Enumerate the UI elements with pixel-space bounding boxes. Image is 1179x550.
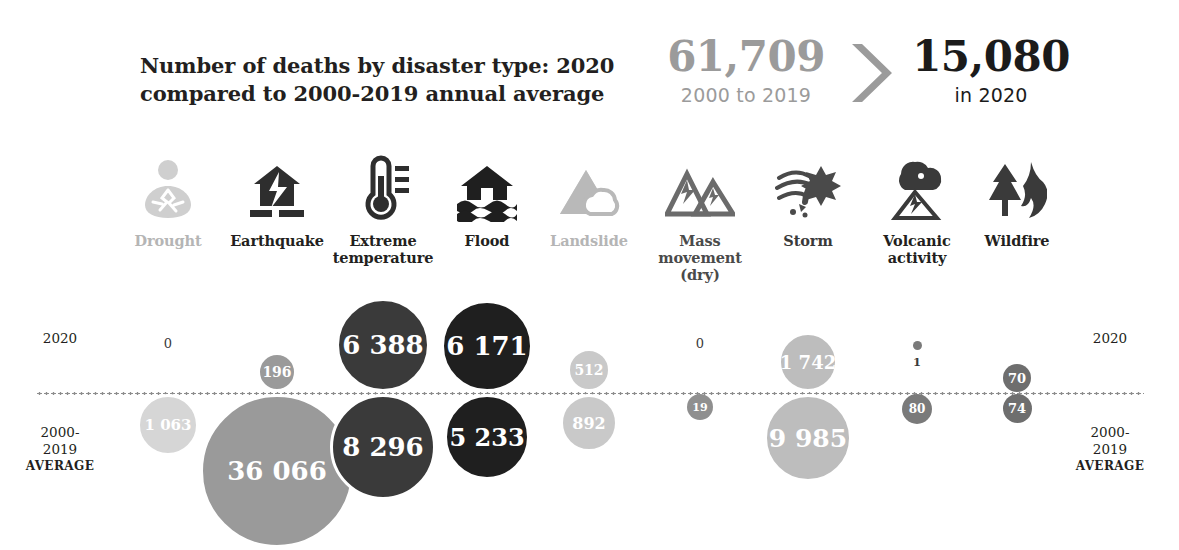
category-label-wildfire: Wildfire [957,232,1077,249]
bubble-volcanic_activity-average[interactable]: 80 [902,394,932,424]
bubble-value-storm-average: 9 985 [769,424,847,453]
bubble-landslide-average[interactable]: 892 [560,394,618,452]
category-label-landslide-line-1: Landslide [529,232,649,249]
thermometer-icon [323,150,443,222]
bubble-value-flood-average: 5 233 [449,423,524,452]
category-label-storm-line-1: Storm [748,232,868,249]
row-label-top-right-text: 2020 [1093,330,1127,346]
bubble-earthquake-average[interactable]: 36 066 [200,394,354,548]
category-label-mass_movement: Massmovement(dry) [640,232,760,283]
row-label-bottom-left-line-1: 2000- [0,424,120,441]
bubble-storm-2020[interactable]: 1 742 [778,332,838,392]
category-label-mass_movement-line-3: (dry) [640,266,760,283]
bubble-value-wildfire-2020: 70 [1008,371,1026,386]
bubble-landslide-2020[interactable]: 512 [567,348,611,392]
kpi-now-value: 15,080 [886,36,1096,78]
bubble-extreme_temperature-average[interactable]: 8 296 [330,394,436,500]
category-label-wildfire-line-1: Wildfire [957,232,1077,249]
category-label-earthquake: Earthquake [217,232,337,249]
bubble-value-mass_movement-average: 19 [692,401,707,414]
bubble-earthquake-2020[interactable]: 196 [257,352,297,392]
category-label-landslide: Landslide [529,232,649,249]
row-label-top-left-text: 2020 [43,330,77,346]
category-earthquake[interactable]: Earthquake [217,150,337,249]
category-label-extreme_temperature: Extremetemperature [323,232,443,266]
category-storm[interactable]: Storm [748,150,868,249]
mass-movement-peaks-icon [640,150,760,222]
bubble-value-extreme_temperature-average: 8 296 [342,432,423,462]
bubble-value-storm-2020: 1 742 [780,352,836,373]
bubble-extreme_temperature-2020[interactable]: 6 388 [336,298,430,392]
bubble-value-earthquake-2020: 196 [262,364,291,380]
bubble-value-volcanic_activity-average: 80 [909,402,926,416]
category-header-row: Drought Earthquake Extremetemperature Fl… [0,150,1179,295]
kpi-past-period: 61,709 2000 to 2019 [646,36,846,107]
category-label-mass_movement-line-2: movement [640,249,760,266]
bubble-drought-average[interactable]: 1 063 [137,394,199,456]
page-title-line-1: Number of deaths by disaster type: 2020 [140,52,640,80]
bubble-storm-average[interactable]: 9 985 [764,394,852,482]
category-label-drought-line-1: Drought [108,232,228,249]
bubble-value-wildfire-average: 74 [1008,401,1026,416]
page-title-line-2: compared to 2000-2019 annual average [140,80,640,108]
category-label-drought: Drought [108,232,228,249]
kpi-now-label: in 2020 [886,84,1096,107]
page-title: Number of deaths by disaster type: 2020 … [140,52,640,107]
bubble-value-mass_movement-2020: 0 [660,336,740,351]
bubble-mass_movement-average[interactable]: 19 [687,394,713,420]
category-wildfire[interactable]: Wildfire [957,150,1077,249]
storm-cyclone-icon [748,150,868,222]
category-drought[interactable]: Drought [108,150,228,249]
row-label-bottom-right-line-1: 2000- [1050,424,1170,441]
bubble-value-landslide-average: 892 [572,414,605,433]
row-label-bottom-right-line-2: 2019 [1050,441,1170,458]
bubble-value-earthquake-average: 36 066 [227,456,327,486]
category-label-storm: Storm [748,232,868,249]
wildfire-tree-flame-icon [957,150,1077,222]
category-label-extreme_temperature-line-1: Extreme [323,232,443,249]
baseline-divider [36,392,1144,395]
bubble-wildfire-average[interactable]: 74 [1003,394,1032,423]
bubble-flood-2020[interactable]: 6 171 [441,300,533,392]
infographic-header: Number of deaths by disaster type: 2020 … [0,0,1179,150]
category-label-earthquake-line-1: Earthquake [217,232,337,249]
kpi-past-label: 2000 to 2019 [646,84,846,107]
row-label-bottom-right-line-3: AVERAGE [1050,459,1170,474]
earthquake-house-icon [217,150,337,222]
row-label-bottom-left: 2000- 2019 AVERAGE [0,424,120,474]
drought-cracked-earth-icon [108,150,228,222]
category-label-extreme_temperature-line-2: temperature [323,249,443,266]
bubble-value-volcanic_activity-2020: 1 [877,355,957,369]
kpi-past-value: 61,709 [646,36,846,78]
row-label-top-left: 2020 [0,330,120,347]
bubble-volcanic_activity-2020[interactable] [913,341,922,350]
bubble-value-extreme_temperature-2020: 6 388 [342,330,423,360]
row-label-top-right: 2020 [1050,330,1170,347]
category-mass_movement[interactable]: Massmovement(dry) [640,150,760,283]
row-label-bottom-left-line-2: 2019 [0,441,120,458]
category-extreme_temperature[interactable]: Extremetemperature [323,150,443,266]
bubble-flood-average[interactable]: 5 233 [444,394,530,480]
row-label-bottom-right: 2000- 2019 AVERAGE [1050,424,1170,474]
bubble-value-flood-2020: 6 171 [446,331,527,361]
bubble-value-drought-average: 1 063 [145,416,192,434]
category-landslide[interactable]: Landslide [529,150,649,249]
row-label-bottom-left-line-3: AVERAGE [0,459,120,474]
category-label-volcanic_activity-line-2: activity [857,249,977,266]
category-label-mass_movement-line-1: Mass [640,232,760,249]
kpi-summary: 61,709 2000 to 2019 15,080 in 2020 [646,36,1126,136]
bubble-value-landslide-2020: 512 [574,362,603,378]
landslide-mountain-icon [529,150,649,222]
kpi-current-period: 15,080 in 2020 [886,36,1096,107]
bubble-wildfire-2020[interactable]: 70 [1003,364,1031,392]
bubble-value-drought-2020: 0 [128,336,208,351]
